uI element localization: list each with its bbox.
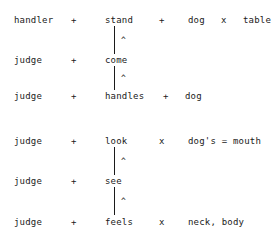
connector-look-see: ^: [108, 147, 136, 175]
connector-stem: [114, 26, 115, 54]
connector-stand-come: ^: [108, 26, 136, 54]
connector-stem: [114, 187, 115, 215]
row-verb: handles: [105, 90, 144, 102]
connector-stem: [114, 147, 115, 175]
row-agent: judge: [14, 90, 42, 102]
row-operator: x: [221, 14, 227, 26]
row-object: neck, body: [188, 216, 244, 228]
row-object-secondary: table: [243, 14, 271, 26]
diagram-row: judge + see: [0, 175, 280, 187]
row-operator: +: [71, 90, 77, 102]
diagram-canvas: handler + stand + dog x table ^ judge + …: [0, 0, 280, 246]
diagram-row: judge + feels x neck, body: [0, 216, 280, 228]
row-operator: +: [71, 54, 77, 66]
row-object: dog: [188, 14, 205, 26]
connector-come-handles: ^: [108, 66, 136, 90]
row-verb: come: [105, 54, 127, 66]
row-operator: +: [71, 14, 77, 26]
row-verb: look: [105, 135, 127, 147]
arrow-up-icon: ^: [121, 37, 126, 45]
row-operator: x: [159, 216, 165, 228]
row-operator: +: [159, 14, 165, 26]
row-operator: +: [71, 216, 77, 228]
diagram-row: judge + come: [0, 54, 280, 66]
row-operator: +: [163, 90, 169, 102]
row-operator: x: [159, 135, 165, 147]
row-object: dog's = mouth: [188, 135, 261, 147]
connector-see-feels: ^: [108, 187, 136, 215]
row-agent: judge: [14, 175, 42, 187]
connector-stem: [114, 66, 115, 90]
row-operator: +: [71, 175, 77, 187]
diagram-row: judge + look x dog's = mouth: [0, 135, 280, 147]
row-operator: +: [71, 135, 77, 147]
row-agent: judge: [14, 135, 42, 147]
row-verb: see: [105, 175, 122, 187]
arrow-up-icon: ^: [121, 75, 126, 83]
diagram-row: handler + stand + dog x table: [0, 14, 280, 26]
diagram-row: judge + handles + dog: [0, 90, 280, 102]
row-object: dog: [185, 90, 202, 102]
row-agent: judge: [14, 54, 42, 66]
arrow-up-icon: ^: [121, 198, 126, 206]
row-agent: judge: [14, 216, 42, 228]
row-verb: feels: [105, 216, 133, 228]
arrow-up-icon: ^: [121, 158, 126, 166]
row-verb: stand: [105, 14, 133, 26]
row-agent: handler: [14, 14, 53, 26]
